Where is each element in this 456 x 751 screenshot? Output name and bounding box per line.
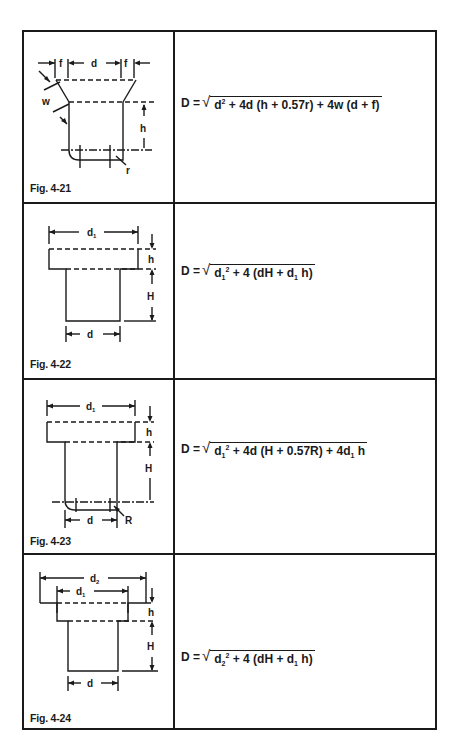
square-root-icon: √: [202, 441, 210, 455]
subscript: 1: [222, 274, 226, 281]
blank-diameter-formula: D = √ d22 + 4 (dH + d1 h): [181, 650, 315, 667]
svg-text:d: d: [87, 678, 93, 689]
figure-cell: d1 h H d R Fig. 4-23: [24, 380, 173, 553]
term: + 4d (H + 0.57R) + 4d: [229, 444, 350, 458]
subscript: 1: [222, 452, 226, 459]
term: h): [298, 652, 313, 666]
term: + 4 (dH + d: [229, 652, 294, 666]
formula-lhs: D =: [181, 650, 200, 664]
figure-label: Fig. 4-23: [30, 535, 71, 547]
square-root-icon: √: [202, 95, 210, 109]
term: + 4d (h + 0.57r) + 4w (d + f): [226, 98, 380, 112]
square-root-icon: √: [202, 649, 210, 663]
table-row: d1 h H d Fig. 4-22 D = √ d12 + 4 (dH + d…: [24, 202, 435, 378]
svg-text:f: f: [59, 58, 63, 69]
figure-cell: d1 h H d Fig. 4-22: [24, 204, 173, 378]
figure-label: Fig. 4-22: [30, 358, 71, 370]
formula-radicand: d2 + 4d (h + 0.57r) + 4w (d + f): [210, 96, 381, 112]
term: d: [214, 266, 221, 280]
svg-text:w: w: [41, 96, 50, 107]
formula-radicand: d12 + 4d (H + 0.57R) + 4d1 h: [210, 442, 367, 459]
term: d: [214, 652, 221, 666]
subscript: 2: [222, 660, 226, 667]
svg-text:h: h: [148, 607, 154, 618]
formula-lhs: D =: [181, 264, 200, 278]
formula-lhs: D =: [181, 442, 200, 456]
blank-diameter-formula: D = √ d2 + 4d (h + 0.57r) + 4w (d + f): [181, 96, 382, 112]
term: d: [214, 444, 221, 458]
svg-text:d1: d1: [76, 586, 86, 598]
svg-text:H: H: [147, 291, 154, 302]
term: + 4 (dH + d: [229, 266, 294, 280]
blank-diameter-formula: D = √ d12 + 4d (H + 0.57R) + 4d1 h: [181, 442, 367, 459]
term: h: [354, 444, 365, 458]
table-row: f d f w h r Fig. 4-21 D = √ d2 + 4d (h +…: [24, 32, 435, 202]
term: h): [298, 266, 313, 280]
flanged-cup-diagram: d1 h H d: [24, 204, 173, 380]
svg-text:H: H: [147, 641, 154, 652]
figure-label: Fig. 4-21: [30, 182, 71, 194]
svg-text:h: h: [148, 254, 154, 265]
svg-text:d2: d2: [90, 573, 100, 585]
svg-text:H: H: [145, 463, 152, 474]
svg-text:R: R: [125, 515, 133, 526]
table-row: d2 d1 h H d Fig. 4-24 D = √ d22 + 4 (dH …: [24, 553, 435, 728]
flanged-cup-with-radius-diagram: d1 h H d R: [24, 380, 173, 555]
formula-table: f d f w h r Fig. 4-21 D = √ d2 + 4d (h +…: [22, 30, 437, 730]
cup-with-flange-diagram: f d f w h r: [24, 32, 173, 202]
formula-radicand: d12 + 4 (dH + d1 h): [210, 264, 314, 281]
svg-text:h: h: [146, 427, 152, 438]
square-root-icon: √: [202, 263, 210, 277]
formula-radicand: d22 + 4 (dH + d1 h): [210, 650, 314, 667]
table-row: d1 h H d R Fig. 4-23 D = √ d12 + 4d (H +…: [24, 378, 435, 553]
term: d: [214, 98, 221, 112]
svg-text:h: h: [140, 123, 146, 134]
figure-cell: d2 d1 h H d Fig. 4-24: [24, 555, 173, 728]
svg-text:r: r: [126, 165, 130, 176]
blank-diameter-formula: D = √ d12 + 4 (dH + d1 h): [181, 264, 315, 281]
stepped-flanged-cup-diagram: d2 d1 h H d: [24, 555, 173, 730]
svg-text:d: d: [91, 58, 97, 69]
figure-label: Fig. 4-24: [30, 712, 71, 724]
figure-cell: f d f w h r Fig. 4-21: [24, 32, 173, 202]
svg-text:d1: d1: [87, 227, 97, 239]
svg-text:d: d: [87, 515, 93, 526]
svg-text:d1: d1: [86, 401, 96, 413]
svg-text:d: d: [87, 329, 93, 340]
svg-text:f: f: [124, 58, 128, 69]
formula-lhs: D =: [181, 96, 200, 110]
